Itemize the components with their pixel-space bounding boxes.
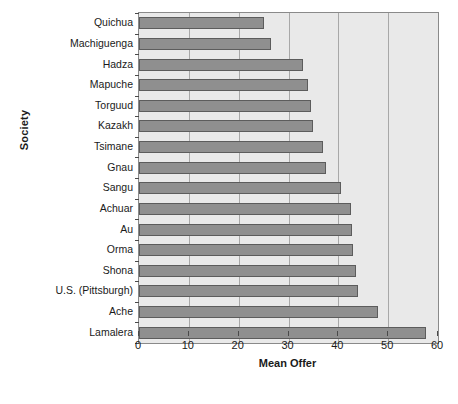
bar <box>139 327 426 339</box>
x-tick <box>288 331 289 336</box>
bar-row <box>139 162 438 174</box>
bar-row <box>139 203 438 215</box>
y-tick <box>135 178 139 179</box>
y-tick <box>135 240 139 241</box>
bar-row <box>139 17 438 29</box>
bar-row <box>139 285 438 297</box>
bar-row <box>139 224 438 236</box>
bar <box>139 17 264 29</box>
y-tick <box>135 137 139 138</box>
bar-row <box>139 265 438 277</box>
y-tick <box>135 219 139 220</box>
x-axis-tick-label: 30 <box>268 339 308 351</box>
bar <box>139 285 358 297</box>
bar <box>139 141 323 153</box>
bar-row <box>139 244 438 256</box>
y-tick <box>135 75 139 76</box>
y-axis-tick-label: Gnau <box>0 161 133 173</box>
bar-row <box>139 327 438 339</box>
bar-row <box>139 59 438 71</box>
y-axis-tick-label: Mapuche <box>0 78 133 90</box>
x-tick <box>138 331 139 336</box>
y-axis-tick-label: Shona <box>0 264 133 276</box>
bar <box>139 182 341 194</box>
bar <box>139 120 313 132</box>
bar <box>139 224 352 236</box>
x-axis-title: Mean Offer <box>138 357 437 369</box>
y-tick <box>135 13 139 14</box>
y-axis-tick-label: Sangu <box>0 181 133 193</box>
x-tick <box>337 331 338 336</box>
bar <box>139 59 303 71</box>
y-tick <box>135 116 139 117</box>
bar <box>139 244 353 256</box>
bar-row <box>139 38 438 50</box>
bar-row <box>139 306 438 318</box>
x-tick <box>437 331 438 336</box>
bar <box>139 203 351 215</box>
x-axis-tick-label: 50 <box>367 339 407 351</box>
y-axis-tick-label: Achuar <box>0 202 133 214</box>
y-tick <box>135 281 139 282</box>
y-axis-tick-label: Torguud <box>0 99 133 111</box>
bar <box>139 162 326 174</box>
x-axis-tick-label: 60 <box>417 339 457 351</box>
x-axis-tick-label: 0 <box>118 339 158 351</box>
y-axis-tick-label: Machiguenga <box>0 37 133 49</box>
y-axis-tick-label: Hadza <box>0 58 133 70</box>
y-axis-tick-label: Au <box>0 223 133 235</box>
bar <box>139 306 378 318</box>
bar <box>139 100 311 112</box>
bar-row <box>139 79 438 91</box>
chart-figure: Society Mean Offer QuichuaMachiguengaHad… <box>0 0 458 404</box>
bar <box>139 38 271 50</box>
y-axis-tick-label: Ache <box>0 305 133 317</box>
x-tick <box>238 331 239 336</box>
x-axis-tick-label: 10 <box>168 339 208 351</box>
bar-row <box>139 100 438 112</box>
y-axis-tick-label: Tsimane <box>0 140 133 152</box>
bar-row <box>139 182 438 194</box>
y-axis-tick-label: Kazakh <box>0 119 133 131</box>
y-tick <box>135 96 139 97</box>
y-tick <box>135 261 139 262</box>
y-tick <box>135 322 139 323</box>
y-axis-tick-label: Quichua <box>0 16 133 28</box>
bar <box>139 79 308 91</box>
x-axis-tick-label: 40 <box>317 339 357 351</box>
y-axis-tick-label: Orma <box>0 243 133 255</box>
y-tick <box>135 302 139 303</box>
y-tick <box>135 54 139 55</box>
x-tick <box>188 331 189 336</box>
y-tick <box>135 157 139 158</box>
y-axis-tick-label: Lamalera <box>0 326 133 338</box>
bar-row <box>139 141 438 153</box>
y-tick <box>135 34 139 35</box>
y-tick <box>135 199 139 200</box>
y-axis-tick-label: U.S. (Pittsburgh) <box>0 284 133 296</box>
bar-row <box>139 120 438 132</box>
x-axis-tick-label: 20 <box>218 339 258 351</box>
figure-caption <box>6 396 456 404</box>
bar <box>139 265 356 277</box>
plot-area <box>138 12 439 344</box>
x-tick <box>387 331 388 336</box>
